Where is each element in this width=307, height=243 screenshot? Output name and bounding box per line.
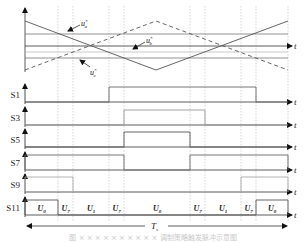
signal-s7: tS7 xyxy=(10,152,297,175)
vector-segment-label: U0 xyxy=(268,204,277,214)
vector-segment-label: U0 xyxy=(38,204,47,214)
vector-segment-label: U7 xyxy=(194,204,203,214)
signal-waveform xyxy=(25,110,288,125)
signal-t-label: t xyxy=(294,165,297,175)
vector-segment-label: U7 xyxy=(62,204,71,214)
vector-segment-label: U7 xyxy=(245,204,254,214)
switching-signals: tS1tS3tS5tS7tS9tS11U0U7U1U7U0U7U1U7U0 xyxy=(6,84,297,220)
signal-t-label: t xyxy=(294,120,297,130)
ub-pointer xyxy=(133,42,145,49)
signal-name: S5 xyxy=(10,135,20,145)
signal-s3: tS3 xyxy=(10,107,297,130)
carrier-dashed xyxy=(25,21,288,70)
ua-pointer xyxy=(68,25,80,31)
ua-label: u*a xyxy=(81,19,88,29)
signal-name: S11 xyxy=(6,203,20,213)
carrier-solid xyxy=(25,21,288,70)
signal-waveform xyxy=(25,177,288,192)
reference-t-label: t xyxy=(294,41,297,51)
signal-name: S1 xyxy=(10,90,20,100)
period-indicator: Ts xyxy=(27,221,287,232)
uc-pointer xyxy=(80,60,90,67)
vector-segment-label: U1 xyxy=(219,204,227,214)
period-label: Ts xyxy=(151,221,158,232)
signal-name: S9 xyxy=(10,180,20,190)
signal-name: S7 xyxy=(10,158,20,168)
signal-waveform xyxy=(25,132,288,147)
vector-segment-label: U1 xyxy=(87,204,95,214)
uc-label: u*c xyxy=(90,68,97,78)
signal-s5: tS5 xyxy=(10,129,297,152)
signal-s9: tS9 xyxy=(10,174,297,197)
time-guide-lines xyxy=(58,6,288,222)
signal-t-label: t xyxy=(294,210,297,220)
ub-label: u*b xyxy=(146,36,153,46)
vector-segment-label: U7 xyxy=(113,204,122,214)
switching-pulse-diagram: t u*a u*b u*c tS1tS3tS5tS7tS9tS11U0U7U1U… xyxy=(0,0,307,243)
signal-waveform xyxy=(25,155,288,170)
signal-s1: tS1 xyxy=(10,84,297,107)
vector-segment-label: U0 xyxy=(153,204,162,214)
figure-caption: 图 × × × × × × × × × × 调制策略触发脉冲示意图 xyxy=(69,233,236,242)
signal-t-label: t xyxy=(294,142,297,152)
signal-waveform xyxy=(25,87,288,102)
signal-t-label: t xyxy=(294,187,297,197)
signal-t-label: t xyxy=(294,97,297,107)
signal-name: S3 xyxy=(10,113,20,123)
signal-s11: tS11 xyxy=(6,197,297,220)
